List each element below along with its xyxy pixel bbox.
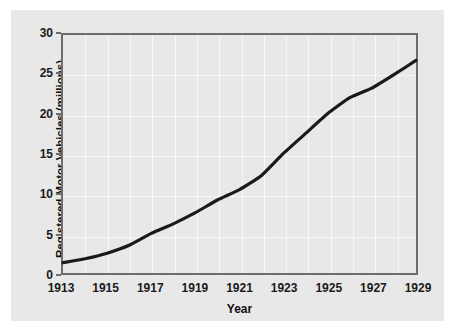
y-tick-label: 25 [23, 66, 53, 80]
x-tick-label: 1913 [38, 281, 84, 295]
x-tick-label: 1917 [127, 281, 173, 295]
x-tick-label: 1921 [217, 281, 263, 295]
x-tick-label: 1923 [261, 281, 307, 295]
y-tick-label: 10 [23, 187, 53, 201]
x-axis-label: Year [61, 302, 418, 316]
data-line-path [63, 60, 416, 262]
data-line-svg [63, 35, 416, 273]
x-tick-label: 1919 [172, 281, 218, 295]
plot-wrapper: Registered Motor Vehicles (millions) 051… [0, 0, 455, 331]
chart-figure: Registered Motor Vehicles (millions) 051… [0, 0, 455, 331]
x-tick-label: 1927 [350, 281, 396, 295]
y-tick-label: 15 [23, 147, 53, 161]
y-tick-label: 5 [23, 228, 53, 242]
y-tick-label: 20 [23, 107, 53, 121]
y-tick-label: 0 [23, 268, 53, 282]
x-tick-label: 1925 [306, 281, 352, 295]
x-tick-label: 1929 [395, 281, 441, 295]
y-tick-label: 30 [23, 26, 53, 40]
x-tick-label: 1915 [83, 281, 129, 295]
plot-area [61, 33, 418, 275]
